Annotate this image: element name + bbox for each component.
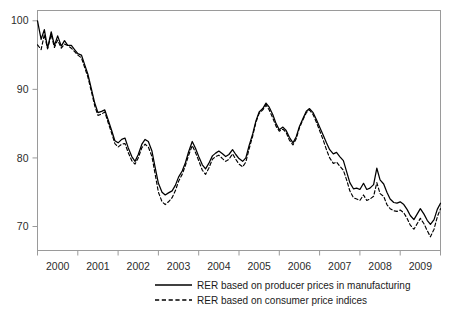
x-tick-label: 2006 [288, 260, 312, 272]
x-tick-label: 2008 [368, 260, 392, 272]
x-tick-label: 2003 [167, 260, 191, 272]
y-tick-label: 80 [17, 152, 29, 164]
x-tick-label: 2002 [127, 260, 151, 272]
chart-figure: 708090100 200020012002200320042005200620… [0, 0, 450, 312]
y-tick-label: 70 [17, 220, 29, 232]
x-tick-label: 2001 [86, 260, 110, 272]
rer-line-chart: 708090100 200020012002200320042005200620… [0, 0, 450, 312]
y-tick-label: 100 [11, 14, 29, 26]
x-tick-label: 2000 [46, 260, 70, 272]
legend-label: RER based on consumer price indices [197, 295, 367, 306]
x-tick-label: 2009 [409, 260, 433, 272]
x-tick-label: 2005 [247, 260, 271, 272]
x-tick-label: 2004 [207, 260, 231, 272]
x-tick-label: 2007 [328, 260, 352, 272]
y-tick-label: 90 [17, 83, 29, 95]
legend-label: RER based on producer prices in manufact… [197, 280, 410, 291]
